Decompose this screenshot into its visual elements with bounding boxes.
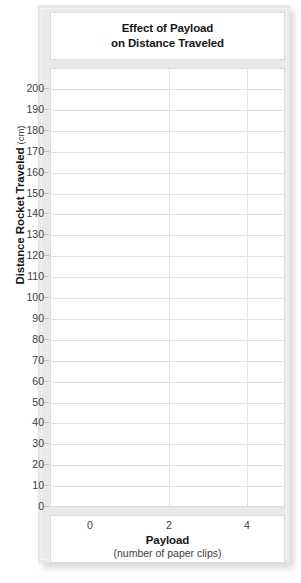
y-axis-tick-mark — [44, 422, 49, 423]
x-axis-tick-label: 4 — [235, 519, 259, 531]
x-axis-panel: 024 Payload (number of paper clips) — [50, 515, 285, 563]
y-axis-tick-label: 70 — [10, 355, 44, 365]
y-axis-tick-mark — [44, 172, 49, 173]
y-axis-tick-mark — [44, 360, 49, 361]
x-axis-tick-label: 2 — [157, 519, 181, 531]
gridline-horizontal — [51, 89, 284, 90]
y-axis-tick-mark — [44, 234, 49, 235]
y-axis-title: Distance Rocket Traveled (cm) — [10, 95, 30, 315]
y-axis-tick-label: 60 — [10, 376, 44, 386]
gridline-horizontal — [51, 277, 284, 278]
chart-figure: Effect of Payload on Distance Traveled 0… — [0, 0, 297, 583]
gridline-horizontal — [51, 152, 284, 153]
gridline-horizontal — [51, 131, 284, 132]
x-axis-title-text: Payload — [51, 534, 284, 546]
y-axis-tick-label: 0 — [10, 501, 44, 511]
y-axis-tick-mark — [44, 339, 49, 340]
y-axis-title-text: Distance Rocket Traveled — [14, 148, 26, 285]
y-axis-tick-mark — [44, 109, 49, 110]
y-axis-tick-mark — [44, 255, 49, 256]
gridline-horizontal — [51, 465, 284, 466]
gridline-horizontal — [51, 403, 284, 404]
y-axis-tick-mark — [44, 381, 49, 382]
y-axis-tick-label: 10 — [10, 480, 44, 490]
gridline-horizontal — [51, 382, 284, 383]
plot-area — [50, 68, 285, 507]
y-axis-tick-label: 40 — [10, 417, 44, 427]
gridline-horizontal — [51, 444, 284, 445]
y-axis-tick-mark — [44, 485, 49, 486]
y-axis-tick-mark — [44, 130, 49, 131]
gridline-horizontal — [51, 361, 284, 362]
gridline-horizontal — [51, 340, 284, 341]
y-axis-tick-mark — [44, 276, 49, 277]
x-axis-tick-label: 0 — [78, 519, 102, 531]
chart-title-panel: Effect of Payload on Distance Traveled — [50, 12, 285, 60]
gridline-horizontal — [51, 194, 284, 195]
y-axis-tick-mark — [44, 151, 49, 152]
y-axis-tick-mark — [44, 506, 49, 507]
y-axis-tick-label: 80 — [10, 334, 44, 344]
gridline-horizontal — [51, 235, 284, 236]
gridline-horizontal — [51, 214, 284, 215]
y-axis-tick-mark — [44, 443, 49, 444]
gridline-horizontal — [51, 110, 284, 111]
gridline-vertical — [169, 69, 170, 506]
y-axis-tick-mark — [44, 213, 49, 214]
y-axis-tick-label: 20 — [10, 459, 44, 469]
chart-title-line-1: Effect of Payload — [122, 21, 214, 36]
y-axis-title-unit: (cm) — [15, 126, 26, 145]
gridline-horizontal — [51, 486, 284, 487]
gridline-vertical — [247, 69, 248, 506]
y-axis-tick-mark — [44, 464, 49, 465]
gridline-horizontal — [51, 256, 284, 257]
gridline-horizontal — [51, 319, 284, 320]
y-axis-tick-mark — [44, 402, 49, 403]
y-axis-tick-label: 30 — [10, 438, 44, 448]
gridline-horizontal — [51, 423, 284, 424]
y-axis-tick-mark — [44, 88, 49, 89]
y-axis-tick-mark — [44, 297, 49, 298]
y-axis-tick-label: 200 — [10, 83, 44, 93]
y-axis-tick-label: 50 — [10, 397, 44, 407]
y-axis-tick-mark — [44, 318, 49, 319]
chart-title-line-2: on Distance Traveled — [111, 36, 224, 51]
gridline-horizontal — [51, 298, 284, 299]
y-axis-tick-mark — [44, 193, 49, 194]
x-axis-title-unit: (number of paper clips) — [51, 547, 284, 559]
gridline-horizontal — [51, 173, 284, 174]
